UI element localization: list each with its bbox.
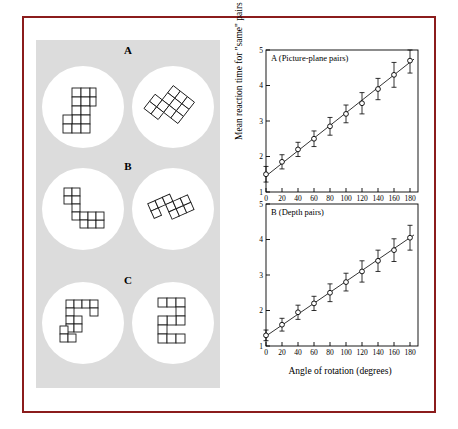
x-tick-label: 0: [264, 194, 268, 203]
stimulus-block-a: A: [40, 48, 216, 152]
x-tick-label: 160: [388, 348, 400, 357]
chart-panel-b: 12345020406080100120140160180B (Depth pa…: [259, 200, 418, 357]
stimulus-label-a: A: [40, 44, 216, 56]
data-point: [280, 322, 285, 327]
reaction-time-charts: 12345020406080100120140160180A (Picture-…: [236, 44, 426, 364]
data-point: [408, 235, 413, 240]
data-point: [312, 301, 317, 306]
stimulus-block-b: B: [40, 162, 216, 266]
stimulus-disc-c-right: [132, 282, 214, 364]
data-point: [360, 101, 365, 106]
x-tick-label: 180: [404, 348, 416, 357]
y-tick-label: 2: [259, 306, 263, 315]
x-tick-label: 40: [294, 348, 302, 357]
y-tick-label: 4: [259, 235, 263, 244]
plot-title: B (Depth pairs): [271, 207, 324, 217]
x-tick-label: 100: [340, 348, 352, 357]
data-point: [360, 269, 365, 274]
plot-frame: [266, 50, 418, 192]
y-tick-label: 5: [259, 46, 263, 55]
x-tick-label: 0: [264, 348, 268, 357]
stimulus-disc-b-right: [132, 168, 214, 250]
stimulus-disc-a-left: [42, 66, 124, 148]
data-point: [376, 87, 381, 92]
cube-figure-b-left: [42, 168, 124, 250]
chart-panel-a: 12345020406080100120140160180A (Picture-…: [259, 46, 418, 203]
data-point: [392, 248, 397, 253]
y-tick-label: 5: [259, 200, 263, 209]
x-tick-label: 100: [340, 194, 352, 203]
data-point: [328, 290, 333, 295]
y-tick-label: 1: [259, 342, 263, 351]
stimulus-block-c: C: [40, 276, 216, 380]
x-tick-label: 40: [294, 194, 302, 203]
figure-root: A: [0, 0, 458, 429]
x-tick-label: 20: [278, 194, 286, 203]
x-tick-label: 120: [356, 348, 368, 357]
data-point: [392, 72, 397, 77]
cube-figure-a-right: [132, 66, 214, 148]
x-tick-label: 20: [278, 348, 286, 357]
x-tick-label: 180: [404, 194, 416, 203]
x-axis-label: Angle of rotation (degrees): [254, 366, 426, 376]
x-tick-label: 140: [372, 194, 384, 203]
data-point: [264, 172, 269, 177]
data-point: [264, 333, 269, 338]
data-point: [408, 58, 413, 63]
data-point: [344, 280, 349, 285]
cube-figure-a-left: [42, 66, 124, 148]
data-point: [296, 310, 301, 315]
stimulus-panel: A: [36, 40, 220, 388]
x-tick-label: 60: [310, 194, 318, 203]
data-point: [280, 159, 285, 164]
x-tick-label: 160: [388, 194, 400, 203]
y-tick-label: 4: [259, 81, 263, 90]
plot-frame: [266, 204, 418, 346]
chart-panel: Mean reaction time for "same" pairs (sec…: [236, 44, 426, 388]
y-tick-label: 2: [259, 152, 263, 161]
x-tick-label: 80: [326, 348, 334, 357]
data-point: [328, 124, 333, 129]
x-tick-label: 60: [310, 348, 318, 357]
stimulus-disc-c-left: [42, 282, 124, 364]
x-tick-label: 80: [326, 194, 334, 203]
y-tick-label: 3: [259, 271, 263, 280]
figure-border: A: [22, 16, 436, 413]
x-tick-label: 140: [372, 348, 384, 357]
stimulus-disc-b-left: [42, 168, 124, 250]
cube-figure-c-left: [42, 282, 124, 364]
data-point: [312, 136, 317, 141]
cube-figure-c-right: [132, 282, 214, 364]
data-point: [296, 147, 301, 152]
cube-figure-b-right: [132, 168, 214, 250]
x-tick-label: 120: [356, 194, 368, 203]
stimulus-disc-a-right: [132, 66, 214, 148]
data-point: [344, 112, 349, 117]
y-tick-label: 1: [259, 188, 263, 197]
plot-title: A (Picture-plane pairs): [271, 53, 349, 63]
data-point: [376, 258, 381, 263]
y-tick-label: 3: [259, 117, 263, 126]
